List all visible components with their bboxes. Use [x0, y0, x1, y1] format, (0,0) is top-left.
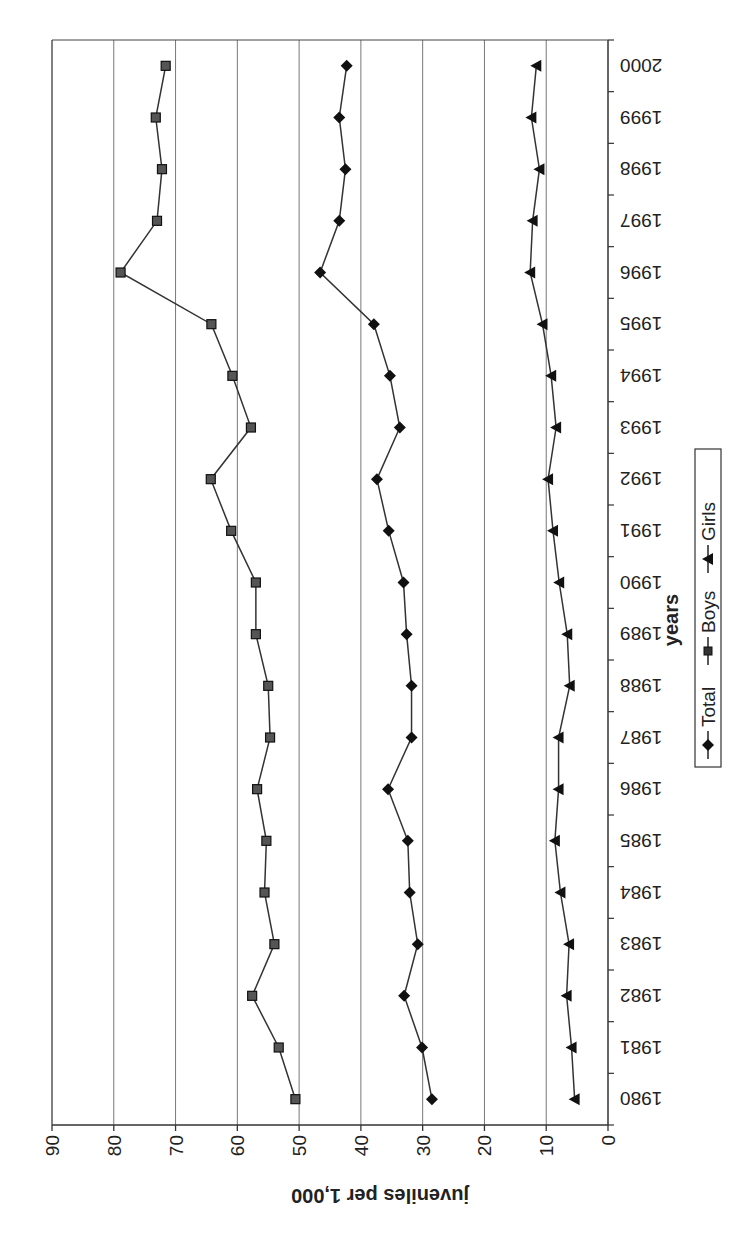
data-point [384, 370, 396, 382]
data-point [383, 525, 395, 537]
x-axis-title: years [660, 594, 682, 646]
data-point [549, 835, 560, 847]
x-tick-label: 2000 [620, 55, 662, 76]
data-point [333, 112, 345, 124]
data-point [153, 216, 162, 225]
y-tick-label: 10 [536, 1135, 557, 1156]
series-total [314, 60, 438, 1105]
data-point [525, 112, 536, 124]
data-point [412, 938, 424, 950]
x-axis-tick-labels: 1980198119821983198419851986198719881989… [620, 55, 663, 1109]
data-point [151, 113, 160, 122]
x-tick-label: 1987 [620, 727, 662, 748]
gridlines [52, 40, 546, 1125]
data-point [248, 991, 257, 1000]
x-tick-label: 1994 [620, 365, 663, 386]
data-point [227, 526, 236, 535]
data-point [398, 990, 410, 1002]
y-tick-label: 20 [474, 1135, 495, 1156]
x-tick-label: 1981 [620, 1037, 662, 1058]
data-point [341, 60, 353, 72]
legend-label-boys: Boys [698, 591, 719, 633]
data-point [207, 320, 216, 329]
x-tick-label: 1980 [620, 1088, 662, 1109]
data-point [161, 61, 170, 70]
data-point [264, 681, 273, 690]
x-tick-label: 1990 [620, 572, 662, 593]
line-chart: 0102030405060708090 19801981198219831984… [0, 0, 743, 1239]
rotated-chart-container: 0102030405060708090 19801981198219831984… [0, 0, 743, 1239]
data-point [402, 835, 414, 847]
y-tick-label: 40 [351, 1135, 372, 1156]
x-tick-label: 1982 [620, 985, 662, 1006]
y-tick-label: 80 [104, 1135, 125, 1156]
data-point [333, 215, 345, 227]
y-tick-label: 0 [598, 1135, 619, 1146]
data-point [262, 836, 271, 845]
data-point [274, 1043, 283, 1052]
data-point [251, 630, 260, 639]
data-point [394, 422, 406, 434]
x-tick-label: 1993 [620, 417, 662, 438]
x-tick-label: 1999 [620, 107, 662, 128]
data-point [406, 732, 418, 744]
legend-label-girls: Girls [698, 502, 719, 541]
x-tick-label: 1997 [620, 210, 662, 231]
x-tick-label: 1986 [620, 778, 662, 799]
x-tick-label: 1996 [620, 262, 662, 283]
x-tick-label: 1984 [620, 882, 663, 903]
x-tick-label: 1998 [620, 158, 662, 179]
data-point [416, 1042, 428, 1054]
data-point [246, 423, 255, 432]
data-series [116, 60, 580, 1105]
x-tick-label: 1995 [620, 313, 662, 334]
data-point [251, 578, 260, 587]
series-boys [116, 61, 300, 1103]
y-axis-tick-labels: 0102030405060708090 [42, 1135, 619, 1156]
x-tick-label: 1988 [620, 675, 662, 696]
data-point [270, 940, 279, 949]
data-point [339, 163, 351, 175]
data-point [406, 680, 418, 692]
y-tick-label: 60 [227, 1135, 248, 1156]
series-girls [524, 60, 579, 1105]
x-tick-label: 1992 [620, 468, 662, 489]
data-point [291, 1095, 300, 1104]
data-point [401, 628, 413, 640]
y-tick-label: 70 [166, 1135, 187, 1156]
data-point [260, 888, 269, 897]
chart-axes [52, 40, 614, 1131]
y-tick-label: 30 [413, 1135, 434, 1156]
data-point [382, 783, 394, 795]
x-tick-label: 1985 [620, 830, 662, 851]
legend-label-total: Total [698, 687, 719, 727]
data-point [542, 473, 553, 485]
data-point [116, 268, 125, 277]
x-tick-label: 1983 [620, 933, 662, 954]
data-point [398, 577, 410, 589]
data-point [157, 165, 166, 174]
y-tick-label: 50 [289, 1135, 310, 1156]
data-point [266, 733, 275, 742]
data-point [426, 1093, 438, 1105]
data-point [228, 371, 237, 380]
data-point [404, 887, 416, 899]
x-tick-label: 1991 [620, 520, 662, 541]
y-axis-title: juveniles per 1,000 [291, 1185, 470, 1207]
square-marker-icon [704, 647, 712, 655]
y-tick-label: 90 [42, 1135, 63, 1156]
legend: Total Boys Girls [695, 449, 721, 767]
data-point [206, 475, 215, 484]
data-point [253, 785, 262, 794]
x-tick-label: 1989 [620, 623, 662, 644]
data-point [371, 473, 383, 485]
